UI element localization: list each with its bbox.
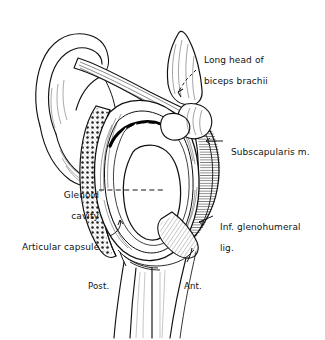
- shoulder-joint-illustration: [0, 0, 325, 340]
- label-articular-capsule: Articular capsule: [16, 231, 99, 252]
- label-subscapularis-muscle: Subscapularis m.: [225, 136, 310, 157]
- label-glenoid-line2: cavity: [71, 211, 99, 221]
- label-biceps-line2: biceps brachii: [204, 76, 268, 86]
- label-inferior-glenohumeral-ligament: Inf. glenohumeral lig.: [214, 211, 301, 253]
- label-biceps-line1: Long head of: [204, 55, 264, 65]
- label-orientation-posterior: Post.: [88, 281, 109, 292]
- label-long-head-biceps-brachii: Long head of biceps brachii: [198, 44, 268, 86]
- label-orientation-anterior: Ant.: [184, 281, 202, 292]
- label-subscapularis-text: Subscapularis m.: [231, 147, 310, 157]
- label-capsule-text: Articular capsule: [22, 242, 99, 252]
- label-glenoid-line1: Glenoid: [64, 190, 99, 200]
- label-glenoid-cavity: Glenoid cavity: [19, 179, 99, 221]
- label-infgh-line2: lig.: [220, 243, 234, 253]
- label-infgh-line1: Inf. glenohumeral: [220, 222, 301, 232]
